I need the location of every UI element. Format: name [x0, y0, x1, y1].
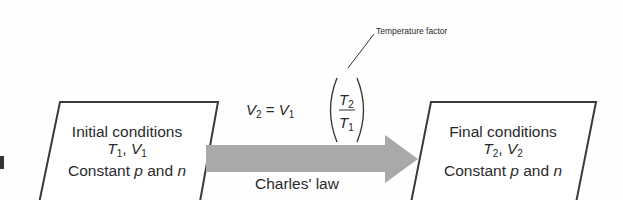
equation-lhs: V2 = V1: [246, 101, 294, 120]
equation-denominator: T1: [339, 114, 354, 133]
final-conditions-text: Final conditions T2, V2 Constant p and n: [428, 123, 578, 179]
annotation-leader-line: [348, 34, 374, 68]
initial-vars: T1, V1: [52, 140, 202, 162]
initial-conditions-text: Initial conditions T1, V1 Constant p and…: [52, 123, 202, 179]
initial-constant: Constant p and n: [52, 162, 202, 179]
right-paren: [357, 78, 364, 142]
final-vars: T2, V2: [428, 140, 578, 162]
temperature-factor-annotation: Temperature factor: [376, 26, 447, 36]
equation-numerator: T2: [339, 91, 354, 110]
final-constant: Constant p and n: [428, 162, 578, 179]
left-paren: [331, 78, 338, 142]
arrow-label: Charles' law: [255, 175, 339, 193]
initial-title: Initial conditions: [52, 123, 202, 140]
final-title: Final conditions: [428, 123, 578, 140]
margin-mark: [0, 156, 4, 169]
